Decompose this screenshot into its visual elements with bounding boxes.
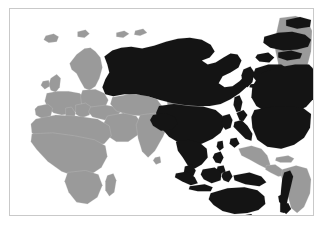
world-map-svg: [10, 9, 313, 215]
map-frame: [9, 8, 314, 216]
world-map-figure: [0, 0, 325, 231]
